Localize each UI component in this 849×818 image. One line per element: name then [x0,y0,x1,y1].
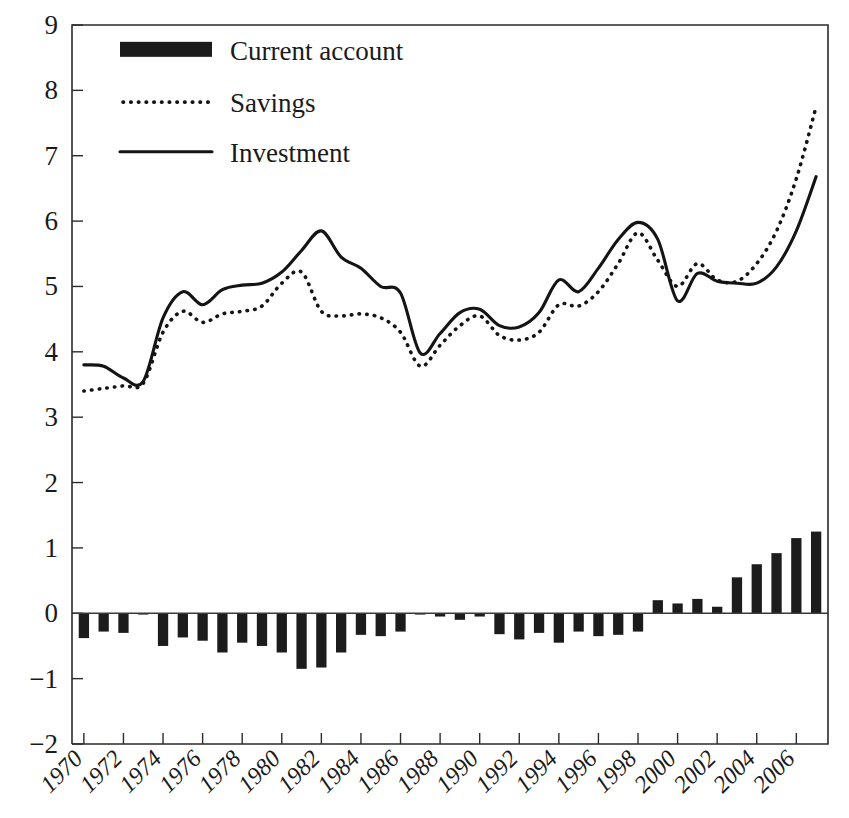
bar-current-account [217,613,227,652]
bar-current-account [653,600,663,613]
y-tick-label: 0 [45,598,59,628]
x-tick-label: 2006 [748,745,800,797]
x-tick-label: 1978 [193,745,245,797]
savings-series-line [84,107,816,391]
bar-current-account [534,613,544,633]
y-tick-label: 4 [45,337,59,367]
legend-swatch-current-account [120,42,212,57]
y-tick-label: 2 [45,468,59,498]
bar-current-account [178,613,188,637]
bar-current-account [237,613,247,642]
bar-current-account [692,599,702,613]
legend-label: Current account [230,36,404,66]
x-tick-label: 1996 [550,745,602,797]
y-tick-label: 6 [45,206,59,236]
x-tick-label: 1994 [510,745,562,797]
bar-current-account [455,613,465,620]
x-tick-label: 1984 [312,745,364,797]
bar-current-account [613,613,623,635]
bar-current-account [633,613,643,631]
bar-current-account [376,613,386,636]
bar-current-account [811,532,821,614]
bar-current-account [277,613,287,652]
bar-current-account [791,538,801,613]
bar-current-account [257,613,267,646]
bar-current-account [99,613,109,631]
y-tick-label: 3 [45,402,59,432]
x-tick-label: 1988 [391,745,443,797]
bar-current-account [79,613,89,638]
bar-current-account [296,613,306,669]
bar-current-account [732,577,742,613]
bar-current-account [672,603,682,613]
y-tick-label: 1 [45,533,59,563]
y-tick-label: 8 [45,75,59,105]
y-axis-ticks: 9876543210−1−2 [29,10,83,759]
bar-current-account [554,613,564,642]
bar-current-account [356,613,366,635]
economics-line-bar-chart: 9876543210−1−2 1970197219741976197819801… [0,0,849,818]
chart-legend: Current accountSavingsInvestment [120,36,404,168]
x-tick-label: 1974 [114,745,166,797]
x-tick-label: 1982 [273,745,325,797]
bar-current-account [771,553,781,613]
y-tick-label: 5 [45,271,59,301]
x-tick-label: 1976 [154,745,206,797]
current-account-bars [79,532,822,669]
x-tick-label: 1998 [589,745,641,797]
y-tick-label: 7 [45,141,59,171]
x-tick-label: 1972 [75,745,127,797]
y-tick-label: −2 [29,729,58,759]
bar-current-account [336,613,346,652]
investment-series-line [84,177,816,386]
bar-current-account [118,613,128,633]
legend-label: Savings [230,88,316,118]
bar-current-account [316,613,326,667]
bar-current-account [158,613,168,646]
bar-current-account [752,564,762,613]
bar-current-account [514,613,524,639]
legend-label: Investment [230,138,350,168]
y-tick-label: −1 [29,664,58,694]
x-axis-ticks: 1970197219741976197819801982198419861988… [35,733,800,797]
y-tick-label: 9 [45,10,59,40]
x-tick-label: 1986 [352,745,404,797]
x-tick-label: 1990 [431,745,483,797]
x-tick-label: 2004 [708,745,760,797]
x-tick-label: 2002 [668,745,720,797]
bar-current-account [593,613,603,636]
x-tick-label: 1992 [470,745,522,797]
bar-current-account [395,613,405,631]
bar-current-account [197,613,207,640]
chart-container: 9876543210−1−2 1970197219741976197819801… [0,0,849,818]
x-tick-label: 1980 [233,745,285,797]
x-tick-label: 2000 [629,745,681,797]
bar-current-account [573,613,583,631]
bar-current-account [494,613,504,634]
bar-current-account [712,607,722,614]
